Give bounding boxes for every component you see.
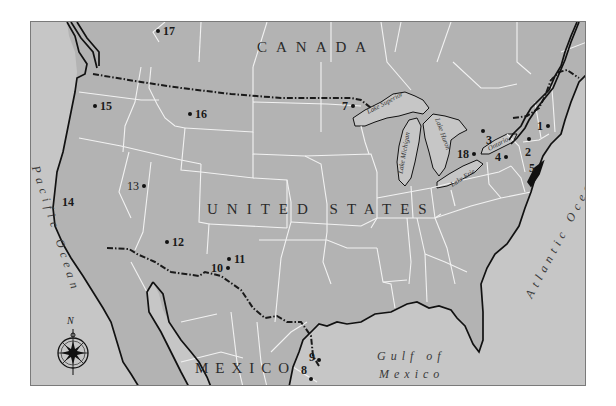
marker-dot — [227, 257, 231, 261]
label-united-states: UNITED STATES — [207, 201, 436, 218]
label-gulf-of-mexico-line1: Gulf of — [377, 349, 446, 364]
compass-rose: N — [53, 319, 93, 381]
label-gulf-of-mexico-line2: Mexico — [379, 367, 444, 382]
marker-8[interactable]: 8 — [301, 364, 307, 376]
marker-16[interactable]: 16 — [188, 108, 207, 120]
marker-15[interactable]: 15 — [93, 100, 112, 112]
marker-1[interactable]: 1 — [537, 120, 550, 132]
marker-dot — [188, 112, 192, 116]
marker-dot — [93, 104, 97, 108]
compass-icon — [53, 319, 93, 381]
marker-9[interactable]: 9 — [309, 351, 321, 363]
marker-4[interactable]: 4 — [495, 151, 508, 163]
marker-dot — [309, 377, 313, 381]
marker-dot — [351, 104, 355, 108]
marker-2[interactable] — [527, 137, 531, 141]
marker-dot — [527, 137, 531, 141]
marker-13[interactable]: 13 — [127, 180, 146, 192]
marker-12[interactable]: 12 — [165, 236, 184, 248]
label-canada: CANADA — [257, 39, 375, 56]
marker-17[interactable]: 17 — [156, 25, 175, 37]
marker-dot — [142, 184, 146, 188]
compass-north-label: N — [67, 315, 74, 326]
marker-dot — [504, 155, 508, 159]
marker-2-label: 2 — [525, 146, 531, 158]
marker-11[interactable]: 11 — [227, 253, 245, 265]
marker-5[interactable]: 5 — [529, 162, 535, 174]
marker-dot — [156, 29, 160, 33]
marker-dot — [317, 358, 321, 362]
map-frame: CANADA UNITED STATES MEXICO Pacific Ocea… — [30, 21, 586, 386]
marker-3-label: 3 — [486, 134, 492, 146]
marker-dot — [226, 266, 230, 270]
marker-dot — [472, 152, 476, 156]
marker-dot — [481, 129, 485, 133]
marker-8-dot[interactable] — [309, 377, 313, 381]
label-mexico: MEXICO — [195, 360, 296, 377]
marker-18[interactable]: 18 — [457, 148, 476, 160]
marker-14[interactable]: 14 — [62, 196, 74, 208]
marker-dot — [546, 124, 550, 128]
marker-dot — [165, 240, 169, 244]
marker-7[interactable]: 7 — [342, 100, 355, 112]
marker-3[interactable] — [481, 129, 485, 133]
